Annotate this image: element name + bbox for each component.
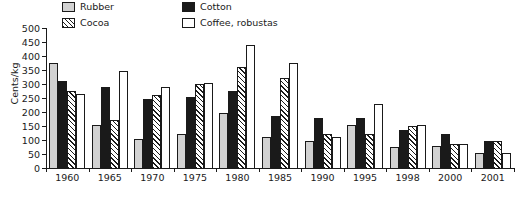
x-tick-mark <box>429 168 430 172</box>
bar-coffee-1965 <box>119 71 128 168</box>
legend-item-rubber: Rubber <box>62 2 114 12</box>
y-tick-250: 250 <box>22 94 40 103</box>
bar-cocoa-2001 <box>493 141 502 168</box>
x-tick-mark <box>131 168 132 172</box>
legend-label-cotton: Cotton <box>200 2 232 12</box>
x-tick-mark <box>514 168 515 172</box>
bar-rubber-1960 <box>49 63 58 168</box>
bar-coffee-1960 <box>76 94 85 168</box>
bar-group-1970 <box>131 28 174 168</box>
bar-cotton-1980 <box>228 91 237 168</box>
x-tick-1960: 1960 <box>55 172 79 183</box>
x-tick-mark <box>301 168 302 172</box>
bar-group-1975 <box>174 28 217 168</box>
bar-group-1985 <box>259 28 302 168</box>
bar-coffee-1980 <box>246 45 255 168</box>
bar-cotton-1960 <box>58 81 67 168</box>
legend-swatch-cotton-icon <box>182 2 195 12</box>
bar-coffee-2000 <box>459 144 468 168</box>
legend-label-cocoa: Cocoa <box>80 18 109 28</box>
bar-cocoa-1960 <box>67 91 76 168</box>
bar-coffee-1970 <box>161 87 170 168</box>
bar-cotton-1975 <box>186 97 195 168</box>
bar-rubber-1975 <box>177 134 186 168</box>
bar-cocoa-1970 <box>152 95 161 168</box>
x-tick-1990: 1990 <box>310 172 334 183</box>
x-tick-mark <box>216 168 217 172</box>
bar-cotton-1965 <box>101 87 110 168</box>
plot-area <box>46 28 514 168</box>
y-tick-0: 0 <box>34 164 40 173</box>
x-tick-mark <box>259 168 260 172</box>
y-tick-450: 450 <box>22 38 40 47</box>
legend-item-cocoa: Cocoa <box>62 18 109 28</box>
x-tick-mark <box>174 168 175 172</box>
bar-rubber-1998 <box>390 147 399 168</box>
bar-rubber-1990 <box>305 141 314 168</box>
legend-swatch-rubber-icon <box>62 2 75 12</box>
bar-cocoa-2000 <box>450 144 459 168</box>
x-axis-line <box>46 168 514 169</box>
y-tick-400: 400 <box>22 52 40 61</box>
x-tick-1980: 1980 <box>225 172 249 183</box>
bar-rubber-2000 <box>432 146 441 168</box>
bar-rubber-1995 <box>347 125 356 168</box>
bar-cotton-2001 <box>484 141 493 168</box>
bar-cotton-1998 <box>399 130 408 168</box>
legend-swatch-cocoa-icon <box>62 18 75 28</box>
x-axis-tick-labels: 1960196519701975198019851990199519982000… <box>46 172 514 186</box>
x-tick-1975: 1975 <box>183 172 207 183</box>
y-tick-200: 200 <box>22 108 40 117</box>
y-tick-100: 100 <box>22 136 40 145</box>
bar-group-1990 <box>301 28 344 168</box>
legend-label-coffee: Coffee, robustas <box>200 18 278 28</box>
bar-group-2001 <box>471 28 514 168</box>
x-tick-1970: 1970 <box>140 172 164 183</box>
legend-swatch-coffee-icon <box>182 18 195 28</box>
bar-rubber-1970 <box>134 139 143 168</box>
bar-coffee-2001 <box>502 153 511 168</box>
y-tick-150: 150 <box>22 122 40 131</box>
bar-coffee-1995 <box>374 104 383 168</box>
bar-cocoa-1995 <box>365 134 374 168</box>
bar-coffee-1975 <box>204 83 213 168</box>
legend-item-coffee: Coffee, robustas <box>182 18 278 28</box>
legend-item-cotton: Cotton <box>182 2 232 12</box>
x-tick-1998: 1998 <box>396 172 420 183</box>
bar-cocoa-1985 <box>280 78 289 168</box>
y-tick-500: 500 <box>22 24 40 33</box>
bar-cotton-1995 <box>356 118 365 168</box>
bar-rubber-1985 <box>262 137 271 168</box>
y-tick-300: 300 <box>22 80 40 89</box>
x-tick-1995: 1995 <box>353 172 377 183</box>
y-tick-50: 50 <box>28 150 40 159</box>
bar-cocoa-1998 <box>408 126 417 168</box>
commodity-price-bar-chart: Rubber Cotton Cocoa Coffee, robustas Cen… <box>0 0 520 205</box>
x-tick-2000: 2000 <box>438 172 462 183</box>
bar-group-2000 <box>429 28 472 168</box>
x-tick-mark <box>471 168 472 172</box>
bar-cocoa-1980 <box>237 67 246 168</box>
bar-cotton-1990 <box>314 118 323 168</box>
x-tick-mark <box>344 168 345 172</box>
bar-coffee-1998 <box>417 125 426 168</box>
bar-cotton-1985 <box>271 116 280 168</box>
x-tick-mark <box>46 168 47 172</box>
bar-cocoa-1965 <box>110 120 119 168</box>
bar-coffee-1990 <box>332 137 341 168</box>
x-tick-mark <box>89 168 90 172</box>
bar-cotton-2000 <box>441 134 450 168</box>
bar-rubber-2001 <box>475 153 484 168</box>
x-tick-mark <box>386 168 387 172</box>
bar-coffee-1985 <box>289 63 298 168</box>
y-axis-tick-labels: 500450400350300250200150100500 <box>14 23 46 173</box>
x-tick-1985: 1985 <box>268 172 292 183</box>
bar-cocoa-1990 <box>323 134 332 168</box>
bar-group-1960 <box>46 28 89 168</box>
x-tick-2001: 2001 <box>481 172 505 183</box>
bar-rubber-1980 <box>219 113 228 168</box>
bar-rubber-1965 <box>92 125 101 168</box>
bar-group-1998 <box>386 28 429 168</box>
bar-cocoa-1975 <box>195 84 204 168</box>
bar-group-1995 <box>344 28 387 168</box>
